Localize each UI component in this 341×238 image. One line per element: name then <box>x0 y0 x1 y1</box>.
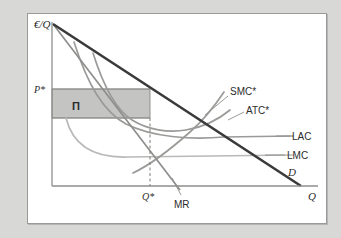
profit-label: Π <box>72 100 80 112</box>
demand-label: D <box>287 166 296 178</box>
atc-leader-line <box>228 112 244 120</box>
atc-label: ATC* <box>246 105 269 116</box>
profit-rectangle <box>52 89 150 118</box>
figure-root: €/Q Q P* Q* Π D MR SMC* ATC* LAC LMC <box>0 0 341 238</box>
y-axis-label: €/Q <box>34 18 51 30</box>
quantity-label: Q* <box>142 191 154 202</box>
price-label: P* <box>33 84 45 95</box>
smc-label: SMC* <box>230 86 256 97</box>
x-axis-label: Q <box>308 190 316 202</box>
diagram-canvas: €/Q Q P* Q* Π D MR SMC* ATC* LAC LMC <box>0 0 341 238</box>
smc-leader-line <box>205 96 228 115</box>
lmc-label: LMC <box>287 150 308 161</box>
lac-label: LAC <box>292 131 311 142</box>
mr-label: MR <box>174 199 190 210</box>
